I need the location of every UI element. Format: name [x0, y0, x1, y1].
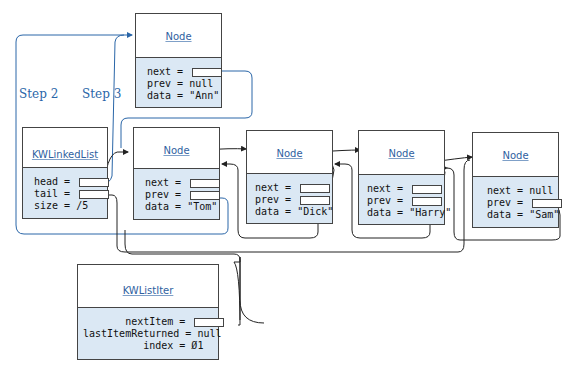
field-next: next = null: [487, 185, 558, 197]
pointer-box: [532, 199, 562, 208]
node-fields: next = null prev = data = "Sam": [473, 176, 558, 227]
iter-fields: nextItem = lastItemReturned = null index…: [78, 307, 218, 359]
field-nextitem: nextItem =: [83, 316, 218, 328]
field-next: next =: [147, 66, 221, 78]
node-title: Node: [136, 31, 221, 42]
list-fields: head = tail = size = /5: [23, 167, 107, 218]
pointer-box: [300, 184, 330, 193]
field-data: data = "Tom": [145, 201, 219, 213]
field-prev: prev =: [367, 195, 444, 207]
field-data: data = "Harry": [367, 207, 444, 219]
field-next: next =: [145, 177, 219, 189]
new-node-ann: Node next = prev = null data = "Ann": [135, 13, 222, 108]
node-sam: Node next = null prev = data = "Sam": [472, 132, 559, 228]
field-prev: prev =: [145, 189, 219, 201]
node-harry: Node next = prev = data = "Harry": [358, 130, 445, 225]
field-prev: prev =: [255, 194, 332, 206]
node-title: Node: [247, 148, 332, 159]
node-title: Node: [473, 150, 558, 161]
node-fields: next = prev = data = "Dick": [247, 173, 332, 223]
node-fields: next = prev = data = "Tom": [134, 168, 219, 219]
field-data: data = "Ann": [147, 90, 221, 102]
pointer-box: [412, 185, 442, 194]
field-prev: prev =: [487, 197, 558, 209]
pointer-box: [192, 68, 222, 77]
field-size: size = /5: [34, 200, 107, 212]
node-tom: Node next = prev = data = "Tom": [133, 127, 220, 220]
pointer-box: [190, 191, 220, 200]
kwlistiter-object: KWListIter nextItem = lastItemReturned =…: [77, 264, 219, 360]
node-dick: Node next = prev = data = "Dick": [246, 130, 333, 224]
list-title: KWLinkedList: [23, 149, 107, 160]
step-2-label: Step 2: [19, 87, 58, 101]
step-3-label: Step 3: [82, 87, 121, 101]
field-next: next =: [367, 183, 444, 195]
pointer-box: [79, 190, 109, 199]
pointer-box: [194, 318, 224, 327]
field-index: index = Ø1: [83, 340, 218, 352]
field-tail: tail =: [34, 188, 107, 200]
kwlinkedlist-object: KWLinkedList head = tail = size = /5: [22, 127, 108, 219]
field-lastitemreturned: lastItemReturned = null: [83, 328, 218, 340]
field-head: head =: [34, 176, 107, 188]
field-data: data = "Sam": [487, 209, 558, 221]
node-fields: next = prev = data = "Harry": [359, 174, 444, 224]
pointer-box: [300, 196, 330, 205]
field-prev: prev = null: [147, 78, 221, 90]
node-title: Node: [134, 145, 219, 156]
node-fields: next = prev = null data = "Ann": [136, 57, 221, 107]
node-title: Node: [359, 148, 444, 159]
pointer-box: [412, 197, 442, 206]
field-data: data = "Dick": [255, 206, 332, 218]
pointer-box: [190, 179, 220, 188]
iter-title: KWListIter: [78, 285, 218, 296]
pointer-box: [79, 178, 109, 187]
field-next: next =: [255, 182, 332, 194]
